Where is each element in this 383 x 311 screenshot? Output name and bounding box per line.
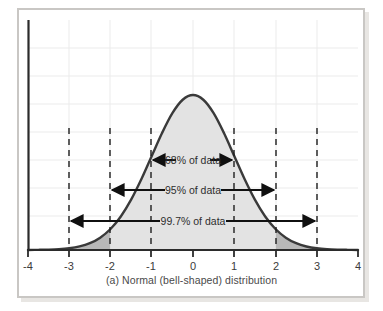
x-tick-label-3: 3 bbox=[314, 260, 320, 272]
normal-distribution-figure: 68% of data 95% of data 99.7% of data bbox=[0, 0, 383, 311]
x-tick-label-neg2: -2 bbox=[105, 260, 115, 272]
x-tick-label-neg1: -1 bbox=[146, 260, 156, 272]
annotation-68-label: 68% of data bbox=[165, 154, 221, 166]
x-axis-tick-labels: -4 -3 -2 -1 0 1 2 3 4 bbox=[23, 260, 361, 272]
x-tick-label-0: 0 bbox=[190, 260, 196, 272]
x-tick-label-4: 4 bbox=[355, 260, 361, 272]
x-tick-label-1: 1 bbox=[231, 260, 237, 272]
annotation-997-label: 99.7% of data bbox=[161, 215, 226, 227]
x-tick-label-neg4: -4 bbox=[23, 260, 33, 272]
curve-fill-center bbox=[28, 95, 358, 250]
x-tick-label-2: 2 bbox=[273, 260, 279, 272]
figure-caption: (a) Normal (bell-shaped) distribution bbox=[0, 274, 383, 286]
distribution-chart: 68% of data 95% of data 99.7% of data bbox=[0, 0, 383, 311]
x-tick-label-neg3: -3 bbox=[64, 260, 74, 272]
annotation-95-label: 95% of data bbox=[165, 184, 221, 196]
